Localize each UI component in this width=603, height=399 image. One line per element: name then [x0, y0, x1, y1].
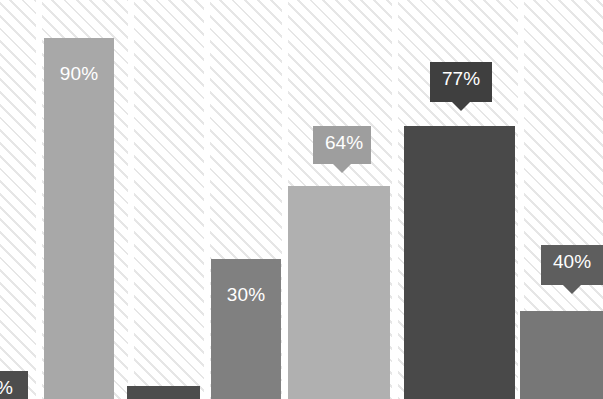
tooltip-64: 64%	[313, 126, 371, 164]
category-band-1	[0, 0, 36, 399]
tooltip-77: 77%	[430, 62, 492, 102]
bar-3-value-label: 30%	[227, 285, 266, 304]
bar-chart: 90%30% 64%77%40% %	[0, 0, 603, 399]
bar-4[interactable]	[288, 186, 390, 399]
tooltip-40-text: 40%	[553, 251, 591, 272]
tooltip-caret-icon	[333, 164, 351, 173]
category-band-3	[134, 0, 204, 399]
bar-5[interactable]	[404, 126, 515, 399]
tooltip-caret-icon	[452, 102, 470, 111]
bar-3[interactable]: 30%	[211, 259, 281, 399]
tooltip-caret-icon	[563, 285, 581, 294]
tooltip-40: 40%	[541, 245, 603, 285]
tooltip-64-text: 64%	[325, 132, 363, 153]
bar-1-value-label: 90%	[60, 64, 99, 83]
bar-2[interactable]	[127, 386, 200, 399]
bar-6[interactable]	[520, 311, 603, 399]
clipped-value-badge: %	[0, 371, 28, 399]
clipped-value-badge-text: %	[0, 377, 13, 398]
tooltip-77-text: 77%	[442, 68, 480, 89]
bar-1[interactable]: 90%	[44, 38, 114, 399]
